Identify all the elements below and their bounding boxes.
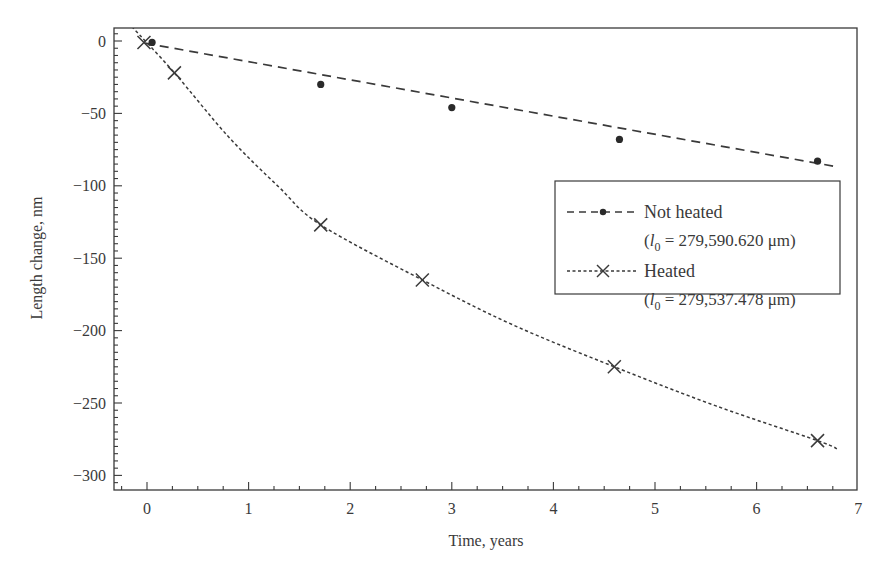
y-tick-label: −300 (73, 467, 106, 484)
y-tick-label: −100 (73, 177, 106, 194)
x-tick-label: 5 (651, 500, 659, 517)
x-tick-label: 3 (448, 500, 456, 517)
y-tick-label: −200 (73, 322, 106, 339)
legend-sublabel-heated: (l0 = 279,537.478 μm) (644, 290, 796, 313)
x-tick-label: 0 (143, 500, 151, 517)
x-tick-label: 6 (753, 500, 761, 517)
data-point (314, 218, 327, 231)
x-tick-label: 1 (245, 500, 253, 517)
data-point (168, 66, 181, 79)
legend-label-not-heated: Not heated (644, 202, 722, 222)
x-axis: 01234567 (122, 482, 863, 517)
chart: 01234567 0−50−100−150−200−250−300 Time, … (0, 0, 888, 572)
data-point (616, 136, 623, 143)
x-tick-label: 2 (346, 500, 354, 517)
y-tick-label: 0 (98, 33, 106, 50)
x-axis-title: Time, years (449, 532, 524, 550)
x-tick-label: 4 (549, 500, 557, 517)
data-point (811, 434, 824, 447)
y-tick-label: −50 (81, 105, 106, 122)
data-point (317, 81, 324, 88)
y-tick-label: −250 (73, 395, 106, 412)
data-point (448, 104, 455, 111)
series-not-heated (145, 39, 838, 167)
y-axis-title: Length change, nm (28, 196, 46, 320)
fit-line (145, 43, 838, 167)
data-point (416, 273, 429, 286)
data-point (814, 158, 821, 165)
x-tick-label: 7 (854, 500, 862, 517)
dot-marker-icon (600, 209, 606, 215)
legend: Not heated (l0 = 279,590.620 μm) Heated … (555, 181, 840, 313)
legend-label-heated: Heated (644, 261, 695, 281)
data-point (608, 360, 621, 373)
y-tick-label: −150 (73, 250, 106, 267)
